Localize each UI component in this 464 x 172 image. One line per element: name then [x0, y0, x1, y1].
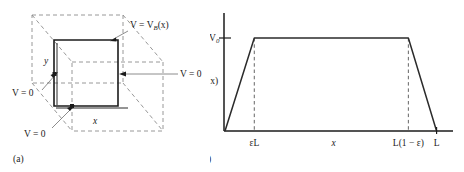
- xlabel-epsilon-L: εL: [249, 138, 259, 148]
- leader-top-potential: [110, 31, 128, 42]
- cross-section-square: [54, 40, 128, 108]
- panel-b-chart: V0 VB(x) εL x L(1 − ε) L (b): [210, 0, 464, 172]
- label-left-zero: V = 0: [12, 88, 34, 98]
- xlabel-L-one-minus-eps: L(1 − ε): [393, 138, 424, 149]
- label-top-potential-tail: (x): [158, 20, 169, 31]
- label-right-zero: V = 0: [180, 69, 202, 79]
- ylabel-v0-sub: 0: [216, 37, 220, 44]
- label-top-potential-main: V = V: [130, 20, 154, 30]
- ylabel-v0: V0: [210, 33, 220, 44]
- xlabel-x: x: [330, 138, 336, 148]
- label-bottom-zero: V = 0: [24, 129, 46, 139]
- label-top-potential: V = VB(x): [130, 20, 169, 31]
- xlabel-L: L: [434, 138, 440, 148]
- perspective-edges-dashed: [32, 15, 163, 131]
- leader-right-zero: [119, 72, 178, 77]
- chart-dashed-guides: [254, 38, 408, 131]
- axis-label-x: x: [92, 116, 98, 126]
- back-face-dashed: [32, 15, 123, 83]
- panel-a-diagram: y x V = VB(x) V = 0 V = 0 V = 0: [0, 0, 210, 172]
- curve-vb-of-x: [225, 38, 437, 131]
- edge-markers: [53, 72, 75, 108]
- caption-panel-a: (a): [13, 154, 24, 165]
- leader-left-zero: [42, 72, 58, 90]
- figure-container: y x V = VB(x) V = 0 V = 0 V = 0: [0, 0, 464, 172]
- axis-label-y: y: [43, 56, 49, 66]
- ylabel-vb-tail: (x): [210, 76, 218, 87]
- caption-panel-b: (b): [210, 154, 211, 165]
- ylabel-vb-of-x: VB(x): [210, 76, 218, 87]
